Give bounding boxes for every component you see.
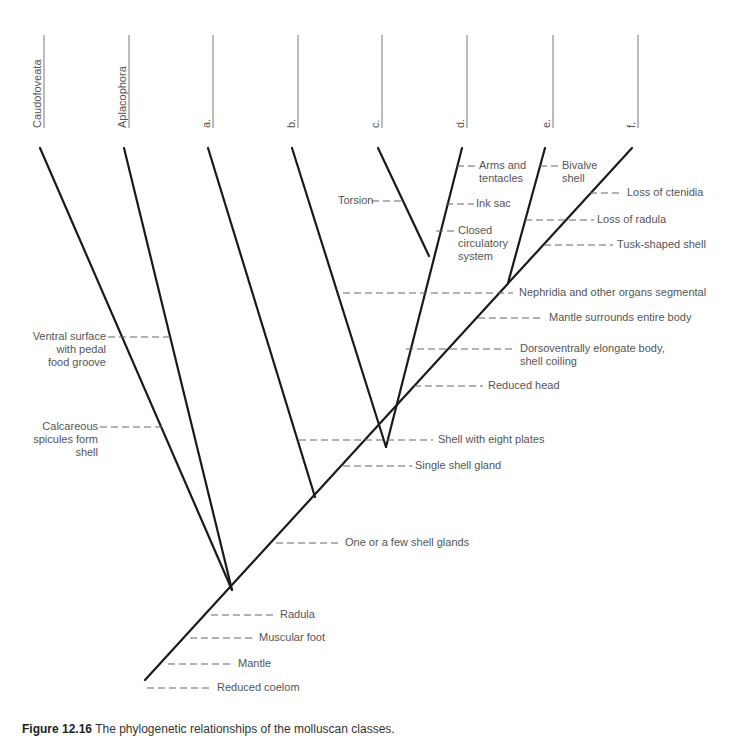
trait-line: Bivalve	[562, 159, 597, 172]
trait-bivalve-shell: Bivalve shell	[562, 159, 597, 185]
trait-muscular-foot: Muscular foot	[259, 631, 325, 644]
trait-ventral-surface: Ventral surface with pedal food groove	[6, 330, 106, 369]
trait-loss-radula: Loss of radula	[597, 213, 666, 226]
branch-d	[386, 148, 462, 447]
branch-b	[292, 148, 386, 447]
trait-line: shell	[6, 446, 98, 459]
trait-line: Calcareous	[6, 420, 98, 433]
trait-line: tentacles	[479, 172, 526, 185]
taxon-rules	[44, 35, 638, 128]
trait-reduced-head: Reduced head	[488, 379, 560, 392]
trait-nephridia: Nephridia and other organs segmental	[519, 286, 706, 299]
trait-line: shell coiling	[520, 355, 665, 368]
taxon-label-b: b.	[285, 119, 297, 128]
branch-aplacophora	[124, 148, 232, 590]
taxon-label-e: e.	[540, 119, 552, 128]
trait-line: food groove	[6, 356, 106, 369]
trait-mantle-surrounds: Mantle surrounds entire body	[549, 311, 691, 324]
trait-line: spicules form	[6, 433, 98, 446]
trait-reduced-coelom: Reduced coelom	[217, 681, 300, 694]
trait-tusk-shell: Tusk-shaped shell	[617, 238, 706, 251]
trait-loss-ctenidia: Loss of ctenidia	[627, 186, 703, 199]
taxon-label-c: c.	[369, 119, 381, 128]
trait-line: Closed	[458, 224, 508, 237]
main-trunk	[145, 148, 632, 680]
trait-calcareous: Calcareous spicules form shell	[6, 420, 98, 459]
trait-few-glands: One or a few shell glands	[345, 536, 469, 549]
branch-c	[378, 148, 429, 256]
branch-a	[208, 148, 315, 497]
trait-line: shell	[562, 172, 597, 185]
trait-line: circulatory	[458, 237, 508, 250]
trait-dorsoventral: Dorsoventrally elongate body, shell coil…	[520, 342, 665, 368]
taxon-label-d: d.	[454, 119, 466, 128]
trait-closed-circulatory: Closed circulatory system	[458, 224, 508, 263]
trait-single-gland: Single shell gland	[415, 459, 501, 472]
trait-ink-sac: Ink sac	[476, 197, 511, 210]
trait-eight-plates: Shell with eight plates	[438, 433, 544, 446]
trait-torsion: Torsion	[338, 194, 373, 207]
trait-line: system	[458, 250, 508, 263]
trait-arms-tentacles: Arms and tentacles	[479, 159, 526, 185]
trait-line: Ventral surface	[6, 330, 106, 343]
taxon-label-caudofoveata: Caudofoveata	[31, 60, 43, 129]
figure-caption: Figure 12.16 The phylogenetic relationsh…	[22, 722, 395, 736]
caption-text: The phylogenetic relationships of the mo…	[95, 722, 395, 736]
trait-mantle: Mantle	[238, 657, 271, 670]
trait-line: Dorsoventrally elongate body,	[520, 342, 665, 355]
trait-line: Arms and	[479, 159, 526, 172]
figure-number: Figure 12.16	[22, 722, 92, 736]
branches	[40, 148, 632, 680]
taxon-label-f: f.	[625, 122, 637, 128]
taxon-label-aplacophora: Aplacophora	[116, 66, 128, 128]
taxon-label-a: a.	[200, 119, 212, 128]
branch-caudofoveata	[40, 148, 232, 590]
trait-radula: Radula	[280, 608, 315, 621]
trait-line: with pedal	[6, 343, 106, 356]
